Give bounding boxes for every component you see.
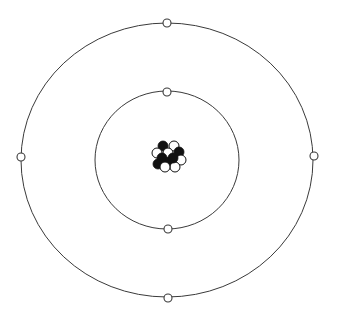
electron [163, 19, 171, 27]
proton [168, 153, 178, 163]
neutron [160, 162, 170, 172]
electron [164, 225, 172, 233]
electron [310, 152, 318, 160]
neutron [170, 162, 180, 172]
atom-diagram [0, 0, 338, 316]
electron [163, 88, 171, 96]
electron [164, 294, 172, 302]
electron [17, 153, 25, 161]
nucleus [152, 141, 186, 172]
atom-diagram-canvas [0, 0, 338, 316]
